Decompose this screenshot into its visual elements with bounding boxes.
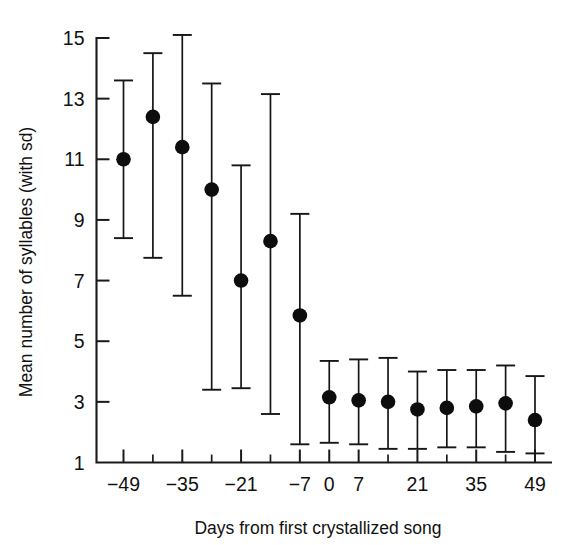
y-tick-label: 7 xyxy=(74,270,85,292)
data-point-marker xyxy=(175,140,190,155)
y-tick-label: 11 xyxy=(64,148,84,170)
data-point-marker xyxy=(440,401,455,416)
data-point-marker xyxy=(116,152,131,167)
data-point-marker xyxy=(204,182,219,197)
y-tick-label: 1 xyxy=(74,452,85,474)
y-axis-tick-labels: 13579111315 xyxy=(63,27,85,474)
error-bar xyxy=(143,53,162,258)
data-point-marker xyxy=(146,110,161,125)
y-axis-ticks xyxy=(97,38,110,402)
error-bar xyxy=(261,94,280,414)
error-bar xyxy=(202,83,221,389)
error-bar xyxy=(173,35,192,296)
y-tick-label: 15 xyxy=(63,27,85,49)
x-tick-label: 49 xyxy=(524,473,546,495)
x-tick-label: 7 xyxy=(353,473,364,495)
x-tick-label: 21 xyxy=(407,473,429,495)
x-tick-label: −35 xyxy=(166,473,199,495)
data-point-marker xyxy=(498,396,513,411)
y-tick-label: 3 xyxy=(74,391,85,413)
figure-root: 13579111315 −49−35−21−707213549 Days fro… xyxy=(0,0,588,545)
x-axis-title: Days from first crystallized song xyxy=(194,518,441,538)
x-axis-major-ticks xyxy=(124,450,536,463)
x-tick-label: −49 xyxy=(107,473,140,495)
data-point-marker xyxy=(381,395,396,410)
data-point-marker xyxy=(410,402,425,417)
x-tick-label: 35 xyxy=(465,473,487,495)
syllable-count-scatter-chart: 13579111315 −49−35−21−707213549 Days fro… xyxy=(0,0,588,545)
data-point-marker xyxy=(528,413,543,428)
data-point-marker xyxy=(293,308,308,323)
y-tick-label: 9 xyxy=(74,209,85,231)
x-tick-label: 0 xyxy=(324,473,335,495)
data-point-marker xyxy=(234,273,249,288)
y-tick-label: 13 xyxy=(63,88,85,110)
x-tick-label: −7 xyxy=(289,473,311,495)
data-point-marker xyxy=(469,399,484,414)
data-point-marker xyxy=(263,234,278,249)
data-point-marker xyxy=(322,390,337,405)
y-tick-label: 5 xyxy=(74,330,85,352)
x-tick-label: −21 xyxy=(225,473,258,495)
data-point-marker xyxy=(351,393,366,408)
x-axis-tick-labels: −49−35−21−707213549 xyxy=(107,473,546,495)
error-bar xyxy=(290,214,309,444)
y-axis-title: Mean number of syllables (with sd) xyxy=(16,127,36,397)
